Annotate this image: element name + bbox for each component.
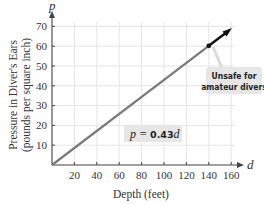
y-axis-title-line1: Pressure in Diver's Ears — [7, 40, 19, 150]
equation-label: p = 0.43d — [129, 127, 181, 141]
pressure-depth-chart: 20 40 60 80 100 120 140 160 10 20 30 40 … — [0, 0, 264, 204]
data-line-unsafe — [209, 32, 227, 46]
y-tick-labels: 10 20 30 40 50 60 70 — [36, 20, 48, 151]
y-axis-title-line2: (pounds per square inch) — [20, 38, 33, 152]
equation-equals: = — [136, 127, 150, 141]
x-tick-label: 140 — [201, 169, 218, 181]
y-tick-label: 40 — [36, 80, 48, 92]
y-tick-label: 20 — [36, 119, 48, 131]
y-tick-label: 50 — [36, 60, 48, 72]
x-tick-label: 60 — [114, 169, 126, 181]
y-tick-label: 70 — [36, 20, 48, 32]
x-tick-label: 160 — [223, 169, 240, 181]
x-tick-label: 80 — [136, 169, 148, 181]
callout-pointer — [213, 47, 222, 68]
callout-line1: Unsafe for — [212, 71, 257, 81]
equation-p: p — [129, 127, 136, 141]
y-axis-title: Pressure in Diver's Ears (pounds per squ… — [7, 38, 33, 152]
x-tick-label: 40 — [91, 169, 103, 181]
callout-line2: amateur divers — [201, 82, 264, 92]
y-tick-label: 60 — [36, 40, 48, 52]
equation-d: d — [174, 127, 181, 141]
x-axis-title: Depth (feet) — [113, 188, 169, 201]
unsafe-start-point — [206, 43, 211, 48]
y-tick-label: 30 — [36, 99, 48, 111]
x-tick-label: 120 — [178, 169, 195, 181]
equation-coefficient: 0.43 — [150, 129, 173, 140]
x-tick-labels: 20 40 60 80 100 120 140 160 — [69, 169, 240, 181]
x-tick-label: 100 — [156, 169, 173, 181]
x-axis-variable: d — [247, 157, 254, 172]
x-axis-arrow-icon — [237, 162, 244, 168]
x-tick-label: 20 — [69, 169, 81, 181]
y-tick-label: 10 — [36, 139, 48, 151]
y-axis-variable: p — [48, 0, 56, 13]
